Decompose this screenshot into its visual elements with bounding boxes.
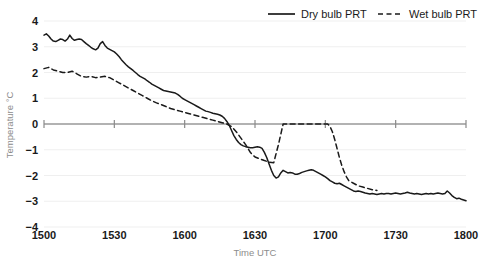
y-tick-label: −2 — [25, 170, 38, 182]
y-axis-tick-labels: 43210−1−2−3−4 — [25, 15, 38, 233]
y-tick-label: −3 — [25, 195, 38, 207]
x-tick-label: 1800 — [454, 229, 478, 241]
y-tick-label: 3 — [32, 41, 38, 53]
y-tick-label: 0 — [32, 118, 38, 130]
x-tick-label: 1630 — [243, 229, 267, 241]
y-axis-title: Temperature °C — [4, 92, 15, 159]
legend: Dry bulb PRT Wet bulb PRT — [268, 8, 477, 20]
series-line-wet-bulb-prt — [44, 67, 377, 190]
temperature-time-series-chart: 1500153016001630170017301800 43210−1−2−3… — [0, 0, 482, 264]
x-tick-label: 1530 — [102, 229, 126, 241]
x-tick-label: 1730 — [383, 229, 407, 241]
legend-label-dry-bulb-prt: Dry bulb PRT — [301, 8, 367, 20]
y-tick-label: −1 — [25, 144, 38, 156]
legend-label-wet-bulb-prt: Wet bulb PRT — [409, 8, 477, 20]
y-tick-label: 1 — [32, 92, 38, 104]
x-tick-label: 1600 — [172, 229, 196, 241]
x-axis-tick-labels: 1500153016001630170017301800 — [32, 229, 478, 241]
x-tick-label: 1700 — [313, 229, 337, 241]
y-tick-label: 4 — [32, 15, 39, 27]
y-tick-label: −4 — [25, 221, 38, 233]
chart-svg: 1500153016001630170017301800 43210−1−2−3… — [0, 0, 482, 264]
y-tick-label: 2 — [32, 67, 38, 79]
x-axis-title: Time UTC — [234, 247, 277, 258]
